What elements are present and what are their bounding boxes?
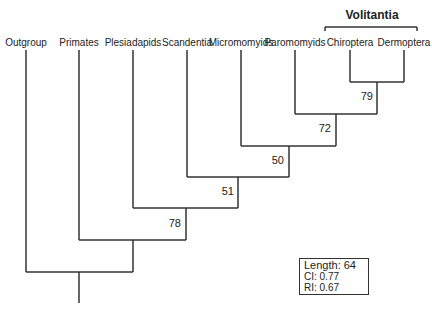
taxon-paromomyids: Paromomyids bbox=[264, 37, 325, 48]
taxon-plesiadapids: Plesiadapids bbox=[105, 37, 162, 48]
taxon-primates: Primates bbox=[59, 37, 98, 48]
taxon-outgroup: Outgroup bbox=[5, 37, 47, 48]
tree-stats-box: Length: 64 CI: 0.77 RI: 0.67 bbox=[299, 258, 369, 295]
support-value-51: 51 bbox=[222, 185, 234, 197]
support-value-78: 78 bbox=[169, 217, 181, 229]
support-value-72: 72 bbox=[319, 122, 331, 134]
support-value-50: 50 bbox=[272, 154, 284, 166]
consistency-index: CI: 0.77 bbox=[304, 271, 364, 282]
clade-label-volitantia: Volitantia bbox=[345, 8, 398, 22]
taxon-scandentia: Scandentia bbox=[162, 37, 212, 48]
taxon-chiroptera: Chiroptera bbox=[327, 37, 374, 48]
taxon-dermoptera: Dermoptera bbox=[378, 37, 431, 48]
tree-length: Length: 64 bbox=[304, 260, 364, 271]
retention-index: RI: 0.67 bbox=[304, 282, 364, 293]
support-value-79: 79 bbox=[361, 90, 373, 102]
